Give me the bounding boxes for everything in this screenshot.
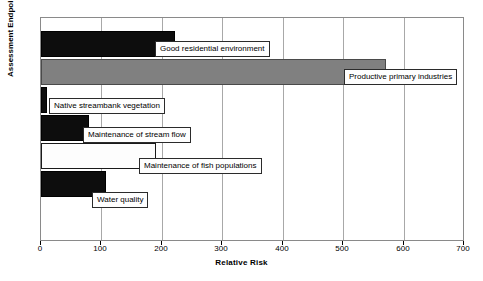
x-tick-label-100: 100 — [93, 244, 106, 253]
callout-maintenance-of-stream-flow[interactable]: Maintenance of stream flow — [83, 127, 191, 143]
callout-native-streambank-vegetation[interactable]: Native streambank vegetation — [49, 98, 165, 114]
callout-maintenance-of-fish-populations[interactable]: Maintenance of fish populations — [139, 158, 262, 174]
bar-chart: Assessment Endpoint Good residential env… — [0, 0, 483, 281]
y-axis-title: Assessment Endpoint — [6, 0, 15, 77]
callout-productive-primary-industries[interactable]: Productive primary industries — [344, 69, 457, 85]
bar-productive-primary-industries[interactable] — [41, 59, 386, 85]
x-tick-label-200: 200 — [154, 244, 167, 253]
callout-good-residential-environment[interactable]: Good residential environment — [155, 41, 270, 57]
x-tick-label-0: 0 — [38, 244, 42, 253]
bar-native-streambank-vegetation[interactable] — [41, 87, 47, 113]
x-tick-label-500: 500 — [335, 244, 348, 253]
x-tick-label-700: 700 — [456, 244, 469, 253]
gridline-600 — [404, 18, 405, 240]
bar-maintenance-of-stream-flow[interactable] — [41, 115, 89, 141]
gridline-400 — [283, 18, 284, 240]
x-axis-title: Relative Risk — [0, 258, 483, 267]
callout-water-quality[interactable]: Water quality — [92, 192, 148, 208]
x-tick-label-300: 300 — [214, 244, 227, 253]
x-tick-label-600: 600 — [396, 244, 409, 253]
x-tick-label-400: 400 — [275, 244, 288, 253]
gridline-500 — [343, 18, 344, 240]
